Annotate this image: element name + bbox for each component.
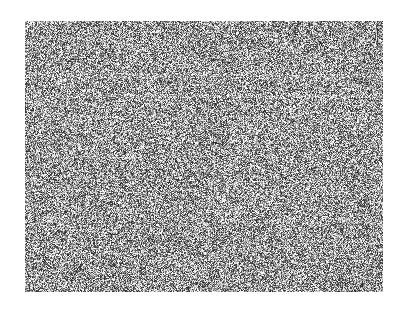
screenshot-canvas: Unreadable noise-corrupted image [0,0,407,315]
corrupted-image-region [25,21,383,292]
noise-texture [25,21,383,292]
